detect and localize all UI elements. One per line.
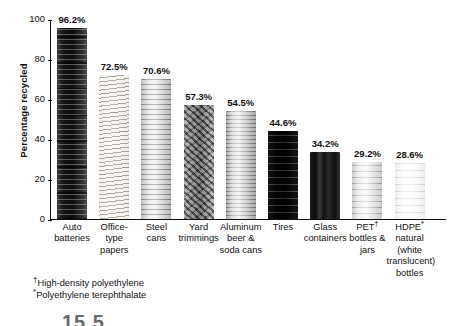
footnote-text: Polyethylene terephthalate [36, 290, 146, 300]
bar-value-label: 72.5% [101, 61, 128, 72]
bar-photo-aluminum [226, 111, 256, 220]
category-label-4: Yardtrimmings [176, 222, 222, 245]
footnotes: †High-density polyethylene*Polyethylene … [33, 278, 146, 301]
category-label-6: Tires [260, 222, 306, 233]
y-tick-label: 0 [40, 213, 45, 224]
category-label-8: PET†bottles &jars [344, 222, 390, 256]
bar-value-label: 34.2% [312, 138, 339, 149]
bar-fill [226, 111, 256, 220]
bar-photo-pet [352, 162, 382, 220]
footnote-1: †High-density polyethylene [33, 278, 146, 290]
bar-photo-steel [141, 79, 171, 220]
y-tick-label: 100 [29, 13, 45, 24]
bar-fill [395, 163, 425, 220]
category-label-5: Aluminumbeer &soda cans [218, 222, 264, 256]
y-tick-label: 80 [34, 53, 45, 64]
category-label-3: Steelcans [133, 222, 179, 245]
bar-fill [99, 75, 129, 220]
footnote-marker: * [421, 219, 424, 228]
figure-caption-partial: 15.5 [62, 312, 202, 326]
bar-fill [184, 105, 214, 220]
bar-photo-hdpe [395, 163, 425, 220]
bar-fill [352, 162, 382, 220]
bar-fill [57, 28, 87, 220]
bar-photo-papers [99, 75, 129, 220]
bar-9[interactable]: 28.6% [395, 163, 425, 220]
category-label-7: Glasscontainers [302, 222, 348, 245]
bar-photo-glass [310, 152, 340, 220]
category-label-2: Office-typepapers [91, 222, 137, 256]
footnote-text: High-density polyethylene [37, 278, 143, 288]
bar-fill [141, 79, 171, 220]
bar-7[interactable]: 34.2% [310, 152, 340, 220]
bar-value-label: 44.6% [270, 117, 297, 128]
bar-value-label: 57.3% [185, 91, 212, 102]
bar-8[interactable]: 29.2% [352, 162, 382, 220]
y-tick-label: 60 [34, 93, 45, 104]
bar-photo-tires [268, 131, 298, 220]
bar-fill [310, 152, 340, 220]
y-tick-label: 40 [34, 133, 45, 144]
bar-value-label: 29.2% [354, 148, 381, 159]
bar-5[interactable]: 54.5% [226, 111, 256, 220]
x-axis-category-labels: AutobatteriesOffice-typepapersSteelcansY… [50, 222, 446, 282]
bar-4[interactable]: 57.3% [184, 105, 214, 220]
footnote-marker: † [374, 219, 378, 228]
plot-area: 96.2%72.5%70.6%57.3%54.5%44.6%34.2%29.2%… [50, 20, 446, 220]
bar-1[interactable]: 96.2% [57, 28, 87, 220]
footnote-2: *Polyethylene terephthalate [33, 290, 146, 302]
x-axis-line [50, 219, 446, 220]
bar-2[interactable]: 72.5% [99, 75, 129, 220]
bar-6[interactable]: 44.6% [268, 131, 298, 220]
bar-value-label: 70.6% [143, 65, 170, 76]
bar-photo-batteries [57, 28, 87, 220]
bar-fill [268, 131, 298, 220]
bar-value-label: 28.6% [396, 149, 423, 160]
bar-photo-yard [184, 105, 214, 220]
recycling-bar-chart: Percentage recycled 100806040200 96.2%72… [0, 0, 449, 326]
bar-value-label: 96.2% [59, 14, 86, 25]
bar-value-label: 54.5% [227, 97, 254, 108]
y-tick-label: 20 [34, 173, 45, 184]
category-label-1: Autobatteries [49, 222, 95, 245]
category-label-9: HDPE*natural(whitetranslucent)bottles [387, 222, 433, 279]
bar-3[interactable]: 70.6% [141, 79, 171, 220]
